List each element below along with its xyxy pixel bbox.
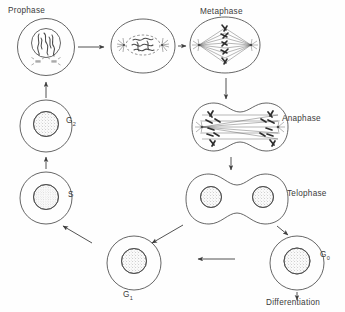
cell-telophase bbox=[186, 174, 288, 224]
arrow-telophase-to-g1 bbox=[152, 225, 183, 243]
cell-metaphase bbox=[190, 17, 260, 73]
label-g0-subscript: 0 bbox=[327, 255, 330, 261]
label-s: S bbox=[68, 190, 74, 199]
cell-s bbox=[20, 172, 72, 224]
label-telophase: Telophase bbox=[287, 189, 327, 198]
centrioles bbox=[32, 58, 61, 66]
label-prophase: Prophase bbox=[8, 6, 45, 15]
cell-g2 bbox=[20, 100, 72, 152]
label-g1: G1 bbox=[123, 290, 133, 301]
cell-cycle-figure: Prophase Metaphase Anaphase Telophase G2… bbox=[0, 0, 345, 312]
label-g2-letter: G bbox=[66, 116, 73, 125]
label-g0-letter: G bbox=[320, 250, 327, 259]
cell-prophase-late bbox=[111, 19, 175, 73]
cell-g0 bbox=[270, 236, 324, 290]
label-differentiation: Differentiation bbox=[266, 298, 320, 307]
arrow-telophase-to-g0 bbox=[277, 226, 288, 235]
cell-cycle-canvas bbox=[0, 0, 345, 312]
cell-g1 bbox=[107, 236, 161, 290]
label-g0: G0 bbox=[320, 250, 330, 261]
cell-anaphase bbox=[192, 103, 288, 151]
spindle-pole-left bbox=[192, 39, 200, 51]
label-g2-subscript: 2 bbox=[73, 121, 76, 127]
label-g1-letter: G bbox=[123, 290, 130, 299]
label-g2: G2 bbox=[66, 116, 76, 127]
centrosome-left bbox=[117, 38, 125, 52]
centrosome-right bbox=[161, 38, 169, 52]
anaphase-pole-left bbox=[195, 120, 203, 134]
label-metaphase: Metaphase bbox=[200, 7, 243, 16]
cell-prophase-early bbox=[18, 19, 75, 76]
label-anaphase: Anaphase bbox=[282, 114, 321, 123]
label-g1-subscript: 1 bbox=[130, 295, 133, 301]
arrow-g1-to-s bbox=[63, 226, 92, 243]
spindle-pole-right bbox=[250, 39, 258, 51]
